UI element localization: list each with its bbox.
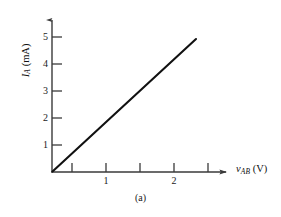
y-axis-title-unit: (mA)	[20, 44, 31, 67]
y-axis-title-subscript: A	[23, 69, 32, 74]
x-axis-title: vAB (V)	[236, 163, 267, 176]
x-axis-title-unit: (V)	[253, 163, 268, 174]
x-axis-title-subscript: AB	[241, 167, 250, 176]
y-axis-title: IA (mA)	[20, 25, 33, 95]
y-axis-title-variable: I	[20, 74, 31, 78]
figure-caption: (a)	[0, 192, 281, 203]
x-tick-label-1: 1	[99, 176, 113, 186]
data-line-iv	[53, 39, 197, 172]
x-axis-ticks	[72, 163, 208, 172]
y-tick-label-5: 5	[34, 32, 48, 42]
y-tick-label-4: 4	[34, 59, 48, 69]
x-tick-label-2: 2	[167, 176, 181, 186]
iv-characteristic-figure: 5 4 3 2 1 1 2 IA (mA) vAB (V) (a)	[0, 0, 281, 217]
y-tick-label-1: 1	[34, 140, 48, 150]
y-axis-ticks	[52, 37, 62, 145]
y-tick-label-2: 2	[34, 113, 48, 123]
y-tick-label-3: 3	[34, 86, 48, 96]
